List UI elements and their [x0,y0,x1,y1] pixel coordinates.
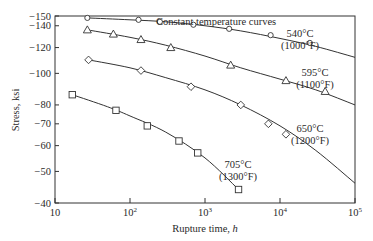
y-tick-label: −60 [35,140,51,151]
annotation-text: Constant temperature curves [156,16,276,27]
square-marker [113,107,119,113]
stress-rupture-chart: −150−140−120−100−80−70−60−50−40 10102103… [0,0,373,241]
square-marker [144,123,150,129]
x-tick-label: 102 [123,206,138,218]
series-label-temp-c: 650°C [297,123,324,134]
x-tick-label: 105 [348,206,363,218]
square-marker [176,138,182,144]
y-tick-label: −80 [35,99,51,110]
triangle-marker [83,26,91,33]
series-label-temp-f: (1100°F) [296,79,334,91]
diamond-marker [237,101,245,109]
square-marker [235,186,241,192]
diamond-marker [85,56,93,64]
y-tick-label: −70 [35,118,51,129]
triangle-marker [227,61,235,68]
y-tick-label: −140 [29,20,51,31]
series-labels: 540°C(1000°F)595°C(1100°F)650°C(1200°F)7… [219,28,334,183]
y-axis-label: Stress, ksi [10,89,21,132]
y-tick-label: −100 [29,68,51,79]
x-tick-label: 103 [198,206,213,218]
x-tick-label: 10 [50,207,61,218]
series-label-temp-c: 540°C [287,28,314,39]
diamond-marker [137,67,145,75]
circle-marker [85,15,90,20]
series-label-temp-c: 595°C [302,67,329,78]
series-label-temp-f: (1200°F) [291,135,330,147]
x-axis-label: Rupture time, h [172,223,238,234]
square-marker [69,92,75,98]
square-marker [195,150,201,156]
circle-marker [227,26,232,31]
y-tick-label: −40 [35,198,51,209]
x-axis: 10102103104105 [50,198,363,218]
series-label-temp-c: 705°C [225,159,252,170]
circle-marker [136,17,141,22]
y-tick-label: −50 [35,166,51,177]
series-line [72,95,238,190]
circle-marker [268,33,273,38]
series-label-temp-f: (1000°F) [281,40,320,52]
series-label-temp-f: (1300°F) [219,171,258,183]
x-tick-label: 104 [273,206,288,218]
y-tick-label: −120 [29,42,51,53]
